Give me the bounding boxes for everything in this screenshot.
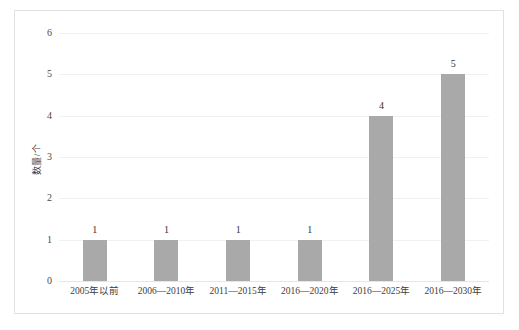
y-axis-title: 数量/个: [30, 130, 43, 190]
bar-group: 1: [274, 33, 346, 281]
x-axis-tick-label: 2006—2010年: [138, 287, 196, 297]
x-axis-tick-label: 2016—2025年: [353, 287, 411, 297]
x-axis-tick-label: 2016—2030年: [424, 287, 482, 297]
y-axis-tick-label: 2: [47, 193, 52, 203]
y-axis-tick-label: 6: [47, 28, 52, 38]
x-axis-tick-label: 2005年以前: [70, 287, 119, 297]
y-axis-tick-label: 5: [47, 69, 52, 79]
bar[interactable]: [369, 116, 393, 281]
bar-group: 1: [131, 33, 203, 281]
y-axis-tick-label: 3: [47, 152, 52, 162]
y-axis-tick-label: 1: [47, 235, 52, 245]
bar-group: 4: [346, 33, 418, 281]
bar-value-label: 1: [164, 225, 169, 235]
y-axis-tick-label: 0: [47, 276, 52, 286]
bar-value-label: 1: [307, 225, 312, 235]
bar[interactable]: [441, 74, 465, 281]
bar[interactable]: [298, 240, 322, 281]
bar-group: 1: [202, 33, 274, 281]
bar-group: 5: [417, 33, 489, 281]
y-axis-tick-label: 4: [47, 111, 52, 121]
x-axis-label-row: 2005年以前2006—2010年2011—2015年2016—2020年201…: [59, 287, 489, 307]
x-axis-tick-label: 2016—2020年: [281, 287, 339, 297]
bar-group: 1: [59, 33, 131, 281]
gridline: [59, 281, 489, 282]
bar-value-label: 5: [451, 59, 456, 69]
bar-value-label: 4: [379, 101, 384, 111]
x-axis-tick-label: 2011—2015年: [210, 287, 267, 297]
bar[interactable]: [83, 240, 107, 281]
bar-value-label: 1: [236, 225, 241, 235]
bar-value-label: 1: [92, 225, 97, 235]
bar[interactable]: [154, 240, 178, 281]
bar[interactable]: [226, 240, 250, 281]
chart-frame: 数量/个 0123456111145 2005年以前2006—2010年2011…: [14, 10, 504, 314]
plot-area: 0123456111145: [59, 33, 489, 281]
